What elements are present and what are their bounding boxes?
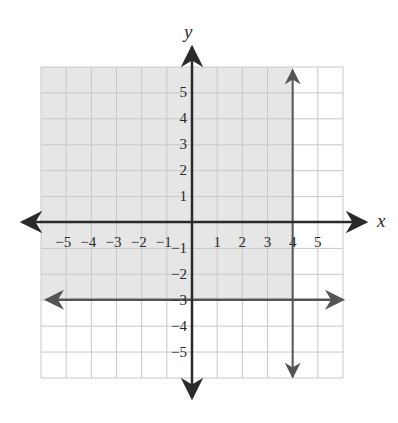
x-tick-label: 2 — [239, 234, 247, 250]
y-tick-label: −4 — [171, 318, 187, 334]
y-tick-label: −3 — [171, 292, 187, 308]
x-tick-label: 3 — [264, 234, 272, 250]
x-tick-label: −2 — [131, 234, 147, 250]
y-tick-label: 5 — [180, 84, 188, 100]
x-tick-label: 1 — [213, 234, 221, 250]
y-tick-label: −2 — [171, 266, 187, 282]
x-axis-label: x — [376, 210, 386, 231]
x-tick-label: −4 — [80, 234, 96, 250]
y-tick-label: 2 — [180, 162, 188, 178]
x-tick-label: −5 — [55, 234, 71, 250]
y-tick-label: −1 — [171, 240, 187, 256]
y-tick-label: 4 — [180, 110, 188, 126]
x-tick-label: −3 — [106, 234, 122, 250]
coordinate-plane: x y −5−4−3−2−112345 54321−1−2−3−4−5 — [0, 0, 398, 423]
y-tick-label: 1 — [180, 188, 188, 204]
x-tick-label: −1 — [156, 234, 172, 250]
y-tick-label: −5 — [171, 344, 187, 360]
y-axis-label: y — [182, 21, 193, 42]
x-tick-label: 4 — [289, 234, 297, 250]
y-tick-label: 3 — [180, 136, 188, 152]
x-tick-label: 5 — [314, 234, 322, 250]
